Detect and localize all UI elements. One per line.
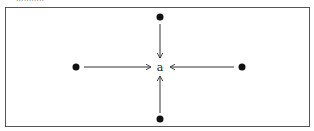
dot-bottom [157,116,164,123]
dot-top [157,14,164,21]
center-label: a [157,61,164,74]
dot-left [73,64,80,71]
dot-right [239,64,246,71]
convergence-diagram: a [0,0,314,131]
